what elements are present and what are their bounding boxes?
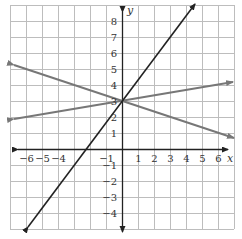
x-tick: 1 bbox=[135, 153, 141, 164]
x-tick: 4 bbox=[183, 153, 189, 164]
x-tick: −5 bbox=[35, 153, 50, 164]
y-tick: 1 bbox=[111, 128, 117, 139]
y-tick: 8 bbox=[111, 16, 117, 27]
y-tick: 4 bbox=[111, 80, 117, 91]
x-tick: 2 bbox=[151, 153, 157, 164]
y-tick: 2 bbox=[111, 112, 117, 123]
x-tick-labels: −6 −5 −4 −1 1 2 3 4 5 6 bbox=[19, 153, 222, 164]
x-axis-label: x bbox=[227, 152, 234, 165]
x-tick: 3 bbox=[167, 153, 173, 164]
x-tick: 5 bbox=[199, 153, 205, 164]
y-tick: 3 bbox=[111, 96, 117, 107]
y-tick: 5 bbox=[111, 64, 117, 75]
y-tick: 7 bbox=[111, 32, 117, 43]
coordinate-plane: −6 −5 −4 −1 1 2 3 4 5 6 8 7 6 5 4 3 2 1 … bbox=[0, 0, 242, 239]
x-tick: 6 bbox=[215, 153, 221, 164]
y-tick: 6 bbox=[111, 48, 117, 59]
x-tick: −4 bbox=[51, 153, 66, 164]
y-axis-label: y bbox=[126, 4, 134, 17]
x-tick: −6 bbox=[19, 153, 34, 164]
y-tick: −1 bbox=[102, 160, 117, 171]
y-tick: −2 bbox=[102, 176, 117, 187]
y-tick: −3 bbox=[102, 192, 117, 203]
y-tick: −4 bbox=[102, 208, 117, 219]
